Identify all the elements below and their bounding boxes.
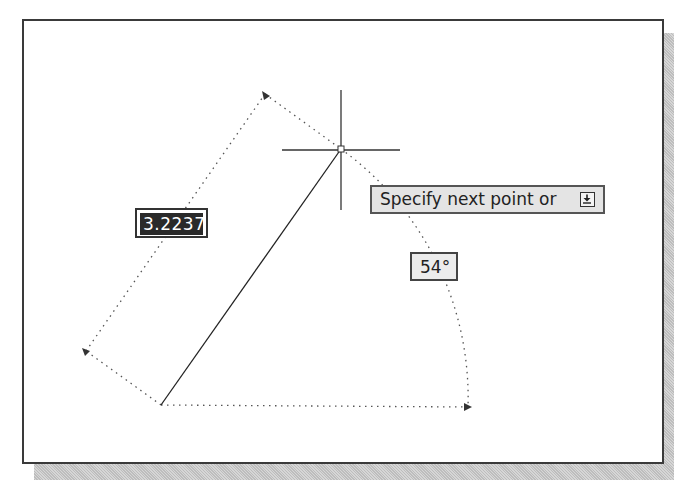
arrowhead-left [82,348,90,356]
length-input[interactable]: 3.2237 [135,208,208,238]
length-value[interactable]: 3.2237 [140,213,203,235]
angle-baseline [161,405,468,407]
dynamic-input-prompt: Specify next point or [370,185,605,214]
angle-input[interactable]: 54° [410,252,458,281]
arrowhead-top [262,91,270,100]
arrowhead-right [464,403,472,411]
rubberband-line [161,149,341,405]
prompt-text: Specify next point or [380,191,556,208]
dim-extension-bottom [86,351,161,405]
dim-extension-top [265,94,341,149]
drawing-geometry [0,0,689,493]
angle-value[interactable]: 54° [420,257,450,277]
down-arrow-options-icon[interactable] [580,192,595,207]
